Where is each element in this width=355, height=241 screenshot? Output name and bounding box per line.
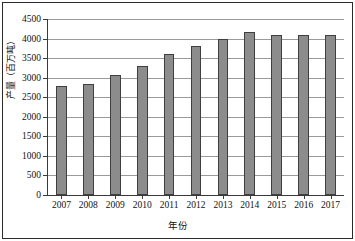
y-axis-tick [43, 58, 48, 59]
y-axis-tick-label: 1500 [7, 131, 41, 141]
bar [83, 84, 94, 195]
x-axis-tick [61, 195, 62, 199]
x-axis-tick-label: 2011 [160, 200, 179, 210]
x-axis-tick-label: 2012 [187, 200, 206, 210]
y-axis-tick-label: 2000 [7, 112, 41, 122]
x-axis-tick-label: 2008 [79, 200, 98, 210]
x-axis-tick-label: 2013 [213, 200, 232, 210]
y-axis-tick-label: 3000 [7, 73, 41, 83]
x-axis-tick [88, 195, 89, 199]
y-axis-tick [43, 78, 48, 79]
bar [325, 35, 336, 195]
y-axis-tick-label: 2500 [7, 92, 41, 102]
x-axis-title: 年份 [0, 218, 355, 232]
x-axis-tick [304, 195, 305, 199]
x-axis-tick-label: 2007 [52, 200, 71, 210]
y-axis-tick [43, 136, 48, 137]
x-axis-tick-label: 2014 [240, 200, 259, 210]
y-axis-tick [43, 117, 48, 118]
y-axis-tick [43, 97, 48, 98]
y-axis-tick [43, 156, 48, 157]
y-axis-tick [43, 195, 48, 196]
y-axis-tick-label: 500 [7, 170, 41, 180]
bar [164, 54, 175, 195]
y-axis-tick-label: 1000 [7, 151, 41, 161]
y-axis-tick-label: 3500 [7, 53, 41, 63]
bar [137, 66, 148, 195]
y-axis-tick-label: 4000 [7, 34, 41, 44]
x-axis-tick [331, 195, 332, 199]
x-axis-tick-label: 2017 [321, 200, 340, 210]
x-axis-tick [196, 195, 197, 199]
y-axis-tick [43, 39, 48, 40]
bar [244, 32, 255, 195]
y-axis-tick-label: 4500 [7, 14, 41, 24]
y-axis-title: 产量（百万吨） [4, 12, 18, 122]
x-axis-tick-label: 2010 [133, 200, 152, 210]
bar [56, 86, 67, 195]
y-axis-tick [43, 175, 48, 176]
x-axis-tick-label: 2016 [294, 200, 313, 210]
plot-area: 050010001500200025003000350040004500 200… [47, 19, 344, 196]
bar [298, 35, 309, 195]
x-axis-tick [250, 195, 251, 199]
x-axis-tick-label: 2015 [267, 200, 286, 210]
bar [110, 75, 121, 195]
bar-chart-figure: 产量（百万吨） 05001000150020002500300035004000… [0, 0, 355, 241]
y-axis-tick [43, 19, 48, 20]
x-axis-tick [115, 195, 116, 199]
x-axis-tick [277, 195, 278, 199]
bar [218, 39, 229, 195]
gridline [48, 19, 344, 20]
bar [191, 46, 202, 195]
x-axis-tick-label: 2009 [106, 200, 125, 210]
x-axis-tick [223, 195, 224, 199]
x-axis-tick [142, 195, 143, 199]
bar [271, 35, 282, 195]
x-axis-tick [169, 195, 170, 199]
y-axis-tick-label: 0 [7, 190, 41, 200]
